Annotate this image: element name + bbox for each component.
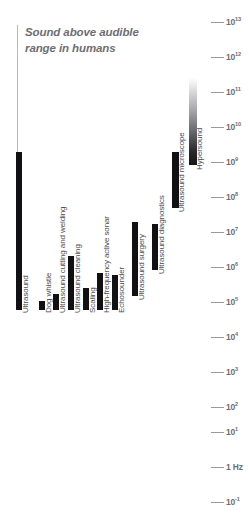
axis-tick-exponent: -1 xyxy=(235,496,240,502)
axis-tick-mark xyxy=(211,127,224,128)
bar-label-ultrasound-microscope: Ultrasound microscope xyxy=(177,132,186,212)
axis-tick-label: 101 xyxy=(226,427,238,437)
axis-tick-exponent: 6 xyxy=(235,261,238,267)
chart-title: Sound above audible range in humans xyxy=(25,24,175,56)
bar-label-ultrasound-diagnostics: Ultrasound diagnostics xyxy=(157,195,166,274)
axis-tick-label: 104 xyxy=(226,332,238,342)
bar-label-ultrasound-surgery: Ultrasound surgery xyxy=(137,234,146,300)
axis-tick-label: 10-1 xyxy=(226,497,240,507)
axis-tick-exponent: 8 xyxy=(235,191,238,197)
axis-tick-exponent: 13 xyxy=(235,16,241,22)
axis-tick-label: 106 xyxy=(226,262,238,272)
axis-tick-mark xyxy=(211,57,224,58)
axis-tick-exponent: 2 xyxy=(235,401,238,407)
bar-label-dog-whistle: Dog whistle xyxy=(44,273,53,313)
axis-tick-mark xyxy=(211,337,224,338)
axis-tick-exponent: 12 xyxy=(235,51,241,57)
axis-tick-label: 105 xyxy=(226,297,238,307)
axis-tick-mark xyxy=(211,432,224,433)
axis-tick-mark xyxy=(211,302,224,303)
axis-tick-label: 109 xyxy=(226,157,238,167)
bar-label-ultrasound-cleaning: Ultrasound cleaning xyxy=(73,244,82,313)
chart-title-line-2: range in humans xyxy=(25,40,175,56)
axis-tick-label: 103 xyxy=(226,367,238,377)
axis-tick-exponent: 4 xyxy=(235,331,238,337)
axis-tick-exponent: 9 xyxy=(235,156,238,162)
axis-tick-exponent: 1 xyxy=(235,426,238,432)
chart-title-line-1: Sound above audible xyxy=(25,24,175,40)
axis-tick-mark xyxy=(211,232,224,233)
axis-tick-label: 1012 xyxy=(226,52,241,62)
axis-tick-mark xyxy=(211,22,224,23)
axis-tick-exponent: 7 xyxy=(235,226,238,232)
bar-label-ultrasound-cutting-and-welding: Ultrasound cutting and welding xyxy=(58,207,67,313)
axis-tick-mark xyxy=(211,467,224,468)
axis-tick-label: 108 xyxy=(226,192,238,202)
axis-tick-mark xyxy=(211,372,224,373)
axis-tick-exponent: 10 xyxy=(235,121,241,127)
bar-label-high-frequency-active-sonar: High-frequency active sonar xyxy=(102,216,111,313)
axis-tick-label: 1 Hz xyxy=(226,462,243,472)
bar-label-ultrasound: Ultrasound xyxy=(21,275,30,313)
axis-tick-label: 1011 xyxy=(226,87,241,97)
sound-frequency-chart: Sound above audible range in humans 1013… xyxy=(0,0,249,521)
axis-tick-exponent: 3 xyxy=(235,366,238,372)
axis-tick-mark xyxy=(211,162,224,163)
bar-label-scaling: Scaling xyxy=(88,287,97,313)
axis-tick-label: 107 xyxy=(226,227,238,237)
axis-tick-mark xyxy=(211,407,224,408)
bar-label-echosounder: Echosounder xyxy=(117,267,126,313)
axis-tick-exponent: 5 xyxy=(235,296,238,302)
axis-tick-mark xyxy=(211,197,224,198)
axis-tick-mark xyxy=(211,92,224,93)
axis-tick-label: 1010 xyxy=(226,122,241,132)
title-vertical-rule xyxy=(17,25,18,152)
axis-tick-mark xyxy=(211,267,224,268)
axis-tick-mark xyxy=(211,502,224,503)
axis-tick-label: 102 xyxy=(226,402,238,412)
axis-tick-exponent: 11 xyxy=(235,86,241,92)
bar-label-hypersound: Hypersound xyxy=(195,128,204,170)
axis-tick-label: 1013 xyxy=(226,17,241,27)
